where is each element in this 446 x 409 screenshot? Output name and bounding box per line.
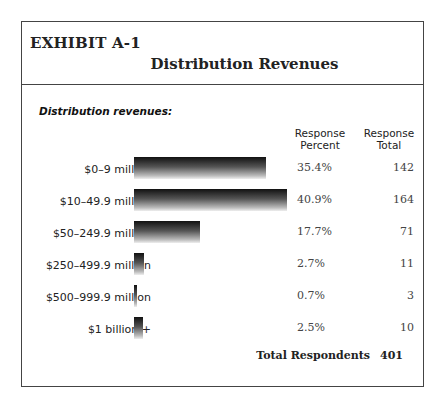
bar xyxy=(134,221,200,243)
total-value: 11 xyxy=(360,257,414,270)
total-value: 142 xyxy=(360,161,414,174)
chart-row: $10–49.9 million40.9%164 xyxy=(22,189,423,215)
total-label: Total Respondents xyxy=(256,349,370,362)
column-header-total: ResponseTotal xyxy=(357,127,421,151)
total-value: 71 xyxy=(360,225,414,238)
chart-subtitle: Distribution revenues: xyxy=(39,105,172,117)
percent-value: 2.5% xyxy=(297,321,357,334)
chart-row: $1 billion +2.5%10 xyxy=(22,317,423,343)
total-value: 3 xyxy=(360,289,414,302)
chart-title: Distribution Revenues xyxy=(22,55,423,73)
percent-value: 35.4% xyxy=(297,161,357,174)
percent-value: 17.7% xyxy=(297,225,357,238)
bar xyxy=(134,189,287,211)
total-value: 10 xyxy=(360,321,414,334)
bar xyxy=(134,253,144,275)
exhibit-label: EXHIBIT A-1 xyxy=(30,34,141,52)
chart-row: $50–249.9 million17.7%71 xyxy=(22,221,423,247)
chart-row: $500–999.9 million0.7%3 xyxy=(22,285,423,311)
total-respondents: Total Respondents401 xyxy=(256,349,403,362)
bar xyxy=(134,317,143,339)
exhibit-frame: EXHIBIT A-1 Distribution Revenues Distri… xyxy=(21,21,424,387)
percent-value: 0.7% xyxy=(297,289,357,302)
column-header-percent: ResponsePercent xyxy=(285,127,355,151)
bar xyxy=(134,157,266,179)
bar xyxy=(134,285,137,307)
total-value: 164 xyxy=(360,193,414,206)
percent-value: 40.9% xyxy=(297,193,357,206)
chart-row: $250–499.9 million2.7%11 xyxy=(22,253,423,279)
percent-value: 2.7% xyxy=(297,257,357,270)
chart-row: $0–9 million35.4%142 xyxy=(22,157,423,183)
exhibit-header: EXHIBIT A-1 Distribution Revenues xyxy=(22,22,423,85)
total-value: 401 xyxy=(380,349,403,362)
